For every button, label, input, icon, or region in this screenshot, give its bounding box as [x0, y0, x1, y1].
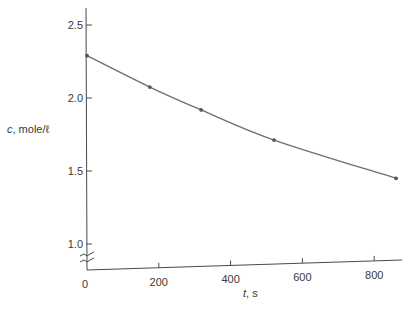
y-axis-ticks: 1.01.52.02.5: [68, 19, 92, 250]
y-tick-label: 1.0: [68, 238, 83, 250]
y-tick-label: 2.5: [68, 19, 83, 31]
axes: [86, 8, 402, 270]
x-tick-label: 600: [293, 271, 311, 283]
x-axis-ticks: 0200400600800: [82, 256, 383, 290]
x-tick-label: 800: [365, 269, 383, 281]
data-point-marker: [85, 54, 89, 58]
y-axis-label: c, mole/ℓ: [7, 123, 50, 135]
x-tick-label: 200: [150, 276, 168, 288]
data-point-marker: [272, 138, 276, 142]
x-axis-label: t, s: [243, 287, 258, 299]
data-curve: [87, 56, 396, 179]
data-points: [85, 54, 398, 180]
y-tick-label: 1.5: [68, 165, 83, 177]
x-tick-label: 400: [221, 273, 239, 285]
data-point-marker: [199, 108, 203, 112]
data-point-marker: [394, 176, 398, 180]
y-axis-unit: , mole/ℓ: [13, 123, 50, 135]
y-tick-label: 2.0: [68, 92, 83, 104]
concentration-vs-time-chart: 1.01.52.02.5 0200400600800 c, mole/ℓ t, …: [0, 0, 416, 317]
y-axis-line: [86, 8, 87, 270]
x-axis-unit: , s: [246, 287, 258, 299]
x-axis-line: [87, 260, 402, 270]
x-tick-label: 0: [82, 278, 88, 290]
data-point-marker: [148, 85, 152, 89]
